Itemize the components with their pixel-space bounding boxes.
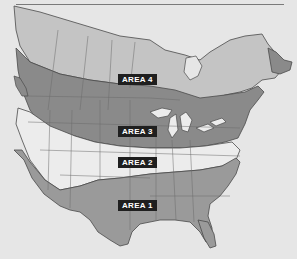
area-3-label: AREA 3 [118,126,157,137]
newfoundland-region [268,48,292,74]
area-2-label: AREA 2 [118,157,157,168]
area-1-label: AREA 1 [118,200,157,211]
area-4-label: AREA 4 [118,74,157,85]
florida [198,220,216,248]
